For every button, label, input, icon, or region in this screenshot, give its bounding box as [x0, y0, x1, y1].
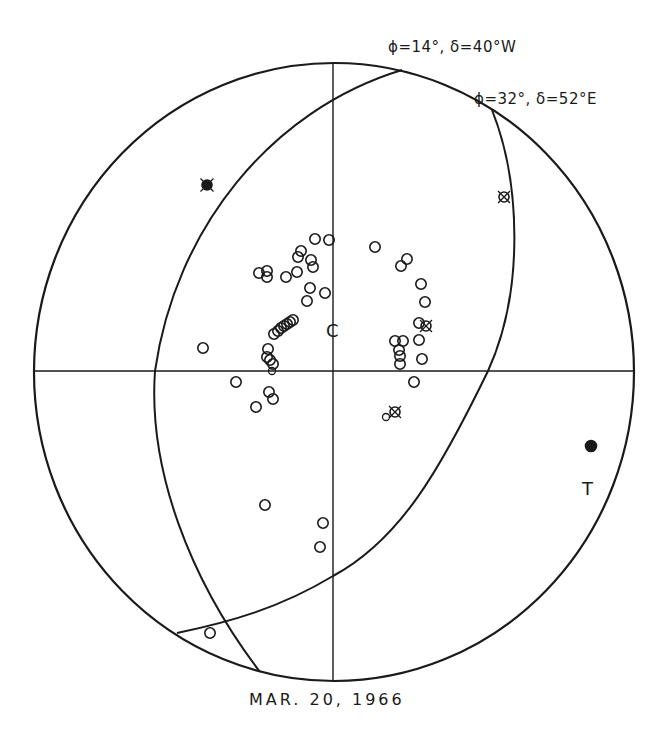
open-circle-dilatation-icon	[231, 377, 241, 387]
open-circle-dilatation-icon	[281, 272, 291, 282]
filled-dot-tension-icon	[586, 441, 597, 452]
open-circle-dilatation-icon	[414, 335, 424, 345]
open-circle-dilatation-icon	[292, 267, 302, 277]
focal-mechanism-diagram: ϕ=14°, δ=40°W ϕ=32°, δ=52°E C T MAR. 20,…	[0, 0, 656, 737]
figure-caption: MAR. 20, 1966	[249, 690, 405, 709]
open-circle-dilatation-icon	[296, 246, 306, 256]
open-circle-dilatation-icon	[402, 254, 412, 264]
open-circle-dilatation-icon	[260, 500, 270, 510]
open-circle-dilatation-icon	[198, 343, 208, 353]
open-circle-dilatation-icon	[370, 242, 380, 252]
open-circle-dilatation-icon	[417, 354, 427, 364]
open-circle-dilatation-icon	[320, 288, 330, 298]
open-circle-dilatation-icon	[315, 542, 325, 552]
open-circle-dilatation-icon	[205, 628, 215, 638]
small-open-circle-icon	[383, 414, 390, 421]
open-circle-dilatation-icon	[395, 359, 405, 369]
open-circle-dilatation-icon	[396, 261, 406, 271]
plane-2-label: ϕ=32°, δ=52°E	[474, 90, 597, 108]
compression-axis-label: C	[326, 320, 339, 341]
open-circle-dilatation-icon	[308, 262, 318, 272]
open-circle-dilatation-icon	[318, 518, 328, 528]
open-circle-dilatation-icon	[305, 283, 315, 293]
tension-axis-label: T	[582, 478, 593, 499]
open-circle-dilatation-icon	[420, 297, 430, 307]
first-motion-symbols	[198, 179, 597, 639]
open-circle-dilatation-icon	[293, 252, 303, 262]
stereonet	[0, 0, 656, 737]
open-circle-dilatation-icon	[302, 296, 312, 306]
open-circle-dilatation-icon	[251, 402, 261, 412]
plane-1-label: ϕ=14°, δ=40°W	[388, 38, 516, 56]
open-circle-dilatation-icon	[416, 279, 426, 289]
stereonet-outline	[34, 63, 634, 681]
open-circle-dilatation-icon	[409, 377, 419, 387]
open-circle-dilatation-icon	[310, 234, 320, 244]
open-circle-dilatation-icon	[306, 255, 316, 265]
